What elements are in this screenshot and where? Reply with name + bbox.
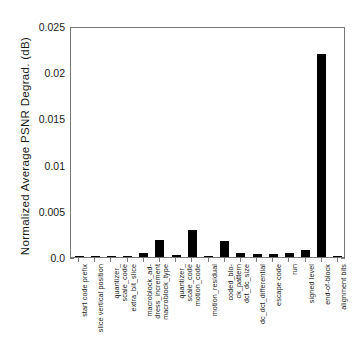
bar-series (71, 28, 344, 257)
bar-slot (200, 28, 216, 257)
x-axis-tick-label: macroblock_type (162, 264, 170, 356)
bar (253, 254, 262, 257)
bar (269, 254, 278, 257)
y-axis-tick-label: 0.02 (5, 67, 65, 79)
x-axis-tick-mark (127, 258, 128, 262)
bar-slot (168, 28, 184, 257)
bar-slot (87, 28, 103, 257)
x-axis-tick-mark (224, 258, 225, 262)
bar (107, 256, 116, 257)
bar (139, 253, 148, 257)
bar-slot (297, 28, 313, 257)
x-axis-tick-label: start code prefix (81, 264, 89, 356)
x-axis-tick-mark (191, 258, 192, 262)
bar-slot (265, 28, 281, 257)
bar-slot (71, 28, 87, 257)
x-axis-tick-label: signed level (308, 264, 316, 356)
bar-slot (330, 28, 346, 257)
bar-slot (136, 28, 152, 257)
x-axis-tick-label: macroblock_ad- dress_increment (146, 264, 162, 356)
bar (188, 230, 197, 257)
bar (155, 240, 164, 257)
y-axis-tick-label: 0.0 (5, 252, 65, 264)
x-axis-tick-mark (288, 258, 289, 262)
x-axis-tick-label: alignment bits (340, 264, 348, 356)
plot-area (70, 27, 345, 258)
x-axis-tick-label: slice vertical position (97, 264, 105, 356)
bar-slot (184, 28, 200, 257)
y-axis-tick-label: 0.005 (5, 206, 65, 218)
bar-slot (103, 28, 119, 257)
bar-slot (249, 28, 265, 257)
bar (91, 256, 100, 257)
bar-slot (233, 28, 249, 257)
x-axis-tick-label: quantizer_ scale_code (113, 264, 129, 356)
x-axis-tick-label: motion_residual (211, 264, 219, 356)
bar-slot (217, 28, 233, 257)
bar (333, 256, 342, 257)
bar (301, 250, 310, 257)
x-axis-tick-mark (208, 258, 209, 262)
y-axis-tick-mark (70, 258, 74, 259)
x-axis-tick-label: motion_code (194, 264, 202, 356)
x-axis-tick-mark (78, 258, 79, 262)
bar-slot (281, 28, 297, 257)
x-axis-tick-mark (159, 258, 160, 262)
x-axis-tick-label: end-of-block (324, 264, 332, 356)
x-axis-tick-label: quantizer_ scale_code (178, 264, 194, 356)
bar (204, 256, 213, 257)
y-axis-tick-label: 0.015 (5, 113, 65, 125)
bar-slot (152, 28, 168, 257)
y-axis-title: Normalized Average PSNR Degrad. (dB) (14, 26, 36, 266)
x-axis-tick-mark (337, 258, 338, 262)
x-axis-tick-label: coded_blo- ck_pattern (227, 264, 243, 356)
x-axis-tick-label: dc_dct_differential (259, 264, 267, 356)
x-axis-tick-mark (256, 258, 257, 262)
bar (172, 255, 181, 257)
bar (285, 253, 294, 257)
y-axis-tick-mark-right (341, 258, 345, 259)
x-axis-tick-mark (240, 258, 241, 262)
bar-chart-figure: Normalized Average PSNR Degrad. (dB) 0.0… (0, 0, 361, 356)
bar (75, 256, 84, 257)
bar-slot (314, 28, 330, 257)
x-axis-tick-mark (305, 258, 306, 262)
bar (236, 253, 245, 257)
x-axis-tick-mark (110, 258, 111, 262)
y-axis-tick-label: 0.01 (5, 160, 65, 172)
x-axis-tick-mark (175, 258, 176, 262)
bar (317, 54, 326, 257)
x-axis-tick-label: dct_dc_size (243, 264, 251, 356)
x-axis-tick-label: escape code (275, 264, 283, 356)
x-axis-tick-mark (272, 258, 273, 262)
x-axis-tick-mark (143, 258, 144, 262)
x-axis-tick-label: extra_bit_slice (130, 264, 138, 356)
bar (123, 256, 132, 257)
bar (220, 241, 229, 257)
bar-slot (120, 28, 136, 257)
y-axis-tick-label: 0.025 (5, 21, 65, 33)
x-axis-tick-mark (94, 258, 95, 262)
x-axis-tick-mark (321, 258, 322, 262)
x-axis-tick-label: run (291, 264, 299, 356)
